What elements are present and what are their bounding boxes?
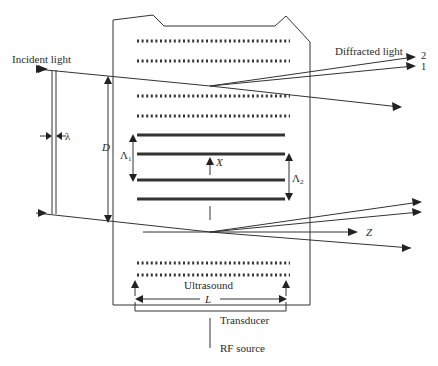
diffracted-light-label: Diffracted light: [335, 45, 403, 57]
incident-ray-bottom: [36, 213, 210, 232]
ultrasound-label: Ultrasound: [184, 279, 233, 291]
arrow-icon: [46, 132, 52, 140]
arrow-icon: [131, 280, 139, 288]
order-2-label: 2: [421, 50, 426, 61]
order-1-label: 1: [421, 61, 426, 72]
arrow-icon: [285, 153, 293, 161]
ultrasound-wavefronts-bottom: [137, 263, 290, 275]
ultrasound-wavefronts-top: [137, 41, 290, 116]
length-label: L: [204, 293, 211, 305]
x-axis-label: X: [215, 156, 224, 168]
lower-output-rays: [210, 198, 422, 252]
arrow-icon: [279, 295, 287, 303]
arrow-icon: [104, 76, 112, 84]
z-axis-label: Z: [366, 226, 373, 238]
arrow-icon: [206, 157, 214, 165]
incident-light-label: Incident light: [12, 53, 71, 65]
transducer-label: Transducer: [220, 314, 269, 326]
upper-output-rays: [210, 53, 416, 111]
wavelength-label: λ: [65, 130, 71, 142]
arrow-icon: [282, 280, 290, 288]
rf-source-label: RF source: [220, 342, 265, 354]
arrow-icon: [348, 228, 358, 236]
incident-ray-top: [36, 65, 210, 86]
arrow-icon: [135, 295, 143, 303]
acousto-optic-diagram: Incident light Diffracted light 2 1 λ D …: [0, 0, 438, 366]
period-1-label: Λ1: [120, 149, 132, 163]
arrow-icon: [38, 209, 47, 217]
arrow-icon: [104, 215, 112, 223]
arrow-icon: [38, 65, 47, 73]
grating-lines: [137, 135, 285, 199]
arrow-icon: [129, 134, 137, 142]
period-2-label: Λ2: [292, 172, 304, 186]
beam-width-label: D: [101, 141, 110, 153]
arrow-icon: [56, 132, 62, 140]
arrow-icon: [285, 193, 293, 201]
arrow-icon: [129, 174, 137, 182]
